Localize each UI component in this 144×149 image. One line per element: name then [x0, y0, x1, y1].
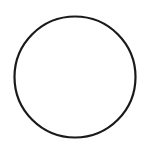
circle-outline [15, 17, 136, 138]
canvas [0, 0, 144, 149]
